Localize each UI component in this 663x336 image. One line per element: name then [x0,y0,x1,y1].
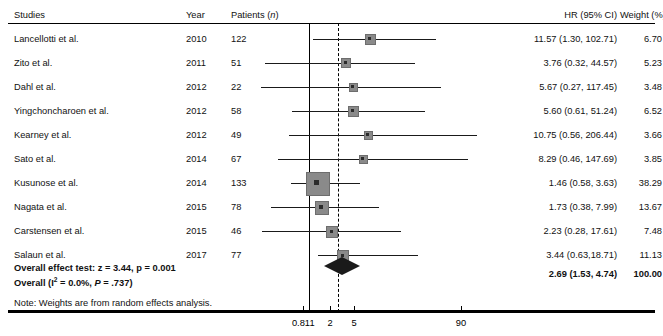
table-row-patients-3: 58 [231,107,271,116]
ci-line-0 [313,39,436,40]
header-rule [8,23,655,24]
table-row-hr-4: 10.75 (0.56, 206.44) [497,131,617,140]
ci-line-6 [291,183,360,184]
table-row-patients-6: 133 [231,179,271,188]
effect-marker-2 [349,83,358,92]
effect-marker-6 [306,172,330,196]
effect-marker-8 [326,226,338,238]
effect-marker-9 [337,250,349,262]
effect-marker-core-3 [351,109,354,112]
ci-line-7 [271,207,379,208]
table-row-patients-2: 22 [231,83,271,92]
table-row-patients-4: 49 [231,131,271,140]
effect-marker-7 [315,201,329,215]
table-row-hr-9: 3.44 (0.63,18.71) [497,251,617,260]
table-row-weight-6: 38.29 [620,179,662,188]
effect-marker-core-0 [368,37,371,40]
table-row-hr-0: 11.57 (1.30, 102.71) [497,35,617,44]
table-row-patients-8: 46 [231,227,271,236]
table-row-weight-4: 3.66 [620,131,662,140]
overall-effect-test-label: Overall effect test: z = 3.44, p = 0.001 [14,264,176,273]
effect-marker-core-8 [330,230,333,233]
effect-marker-core-5 [361,157,364,160]
table-row-hr-6: 1.46 (0.58, 3.63) [497,179,617,188]
table-row-patients-0: 122 [231,35,271,44]
table-row-patients-7: 78 [231,203,271,212]
column-header-year: Year [186,11,220,20]
x-axis-label-4: 90 [456,318,466,328]
table-row-year-0: 2010 [186,35,220,44]
table-row-study-6: Kusunose et al. [14,179,78,188]
table-row-weight-0: 6.70 [620,35,662,44]
ci-line-1 [265,63,415,64]
table-row-hr-3: 5.60 (0.61, 51.24) [497,107,617,116]
table-row-study-2: Dahl et al. [14,83,56,92]
table-row-year-5: 2014 [186,155,220,164]
table-row-weight-5: 3.85 [620,155,662,164]
table-row-year-8: 2015 [186,227,220,236]
table-row-study-4: Kearney et al. [14,131,71,140]
overall-effect-diamond [322,254,362,280]
ci-line-4 [289,135,477,136]
table-row-weight-8: 7.48 [620,227,662,236]
table-row-weight-3: 6.52 [620,107,662,116]
overall-suffix: = .737) [101,278,133,288]
effect-marker-core-9 [341,254,344,257]
table-row-study-0: Lancellotti et al. [14,35,79,44]
footer-rule [8,310,655,312]
effect-marker-5 [359,155,368,164]
table-row-hr-1: 3.76 (0.32, 44.57) [497,59,617,68]
x-axis-label-3: 5 [351,318,356,328]
table-row-year-6: 2014 [186,179,220,188]
table-row-year-9: 2017 [186,251,220,260]
column-header-patients: Patients (n) [231,11,279,20]
x-axis-label-1: 1 [309,318,314,328]
table-row-hr-7: 1.73 (0.38, 7.99) [497,203,617,212]
overall-heterogeneity-label: Overall (I2 = 0.0%, P = .737) [14,277,132,288]
patients-label-text: Patients ( [231,10,270,20]
ci-line-9 [318,255,418,256]
table-row-year-4: 2012 [186,131,220,140]
effect-marker-core-7 [319,205,323,209]
table-row-weight-1: 5.23 [620,59,662,68]
table-row-weight-9: 11.13 [620,251,662,260]
table-row-study-5: Sato et al. [14,155,56,164]
table-row-year-7: 2015 [186,203,220,212]
table-row-weight-7: 13.67 [620,203,662,212]
effect-marker-1 [341,58,351,68]
effect-marker-core-6 [314,180,319,185]
x-axis-label-0: 0.81 [292,318,310,328]
table-row-study-9: Salaun et al. [14,251,66,260]
effect-marker-core-1 [344,61,347,64]
effect-marker-core-4 [366,133,369,136]
table-row-year-3: 2012 [186,107,220,116]
footnote-text: Note: Weights are from random effects an… [14,299,212,308]
table-row-year-1: 2011 [186,59,220,68]
ci-line-8 [262,231,401,232]
patients-label-close: ) [275,10,278,20]
overall-weight-value: 100.00 [620,270,662,279]
table-row-weight-2: 3.48 [620,83,662,92]
table-row-hr-2: 5.67 (0.27, 117.45) [497,83,617,92]
ci-line-3 [292,111,425,112]
column-header-hr: HR (95% CI) [497,11,617,20]
effect-marker-core-2 [351,85,354,88]
null-effect-line [309,23,310,312]
ci-line-5 [278,159,468,160]
overall-hr-value: 2.69 (1.53, 4.74) [497,270,617,279]
table-row-study-3: Yingchoncharoen et al. [14,107,109,116]
effect-marker-0 [365,34,376,45]
table-row-hr-8: 2.23 (0.28, 17.61) [497,227,617,236]
effect-marker-3 [348,106,359,117]
column-header-weight: Weight (%) [620,11,662,20]
table-row-hr-5: 8.29 (0.46, 147.69) [497,155,617,164]
pooled-effect-dashed-line [338,23,339,312]
table-row-study-8: Carstensen et al. [14,227,84,236]
effect-marker-4 [364,131,373,140]
table-row-year-2: 2012 [186,83,220,92]
table-row-patients-5: 67 [231,155,271,164]
overall-prefix: Overall (I [14,278,54,288]
ci-line-2 [261,87,441,88]
column-header-studies: Studies [14,11,45,20]
table-row-study-7: Nagata et al. [14,203,67,212]
